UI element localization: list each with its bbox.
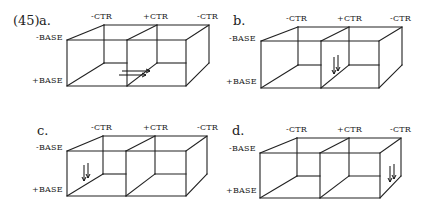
label-minus-ctr-left: -CTR bbox=[91, 123, 113, 132]
panel-label: b. bbox=[233, 13, 245, 28]
box-wireframe bbox=[67, 25, 209, 86]
label-minus-ctr-right: -CTR bbox=[197, 12, 219, 21]
label-minus-ctr-left: -CTR bbox=[286, 14, 308, 23]
figure-number: (45) bbox=[13, 13, 40, 28]
panel-c: c. -CTR +CTR -CTR -BASE +BASE bbox=[32, 123, 219, 196]
panel-a: (45) a. -CTR +CTR -CTR -BASE +BASE bbox=[13, 12, 219, 86]
label-plus-ctr: +CTR bbox=[337, 125, 363, 134]
label-minus-base: -BASE bbox=[229, 34, 256, 43]
arrows-down-icon bbox=[332, 55, 340, 74]
panel-label: d. bbox=[232, 123, 244, 138]
box-wireframe bbox=[261, 27, 402, 88]
arrows-down-icon bbox=[82, 163, 90, 181]
label-plus-base: +BASE bbox=[226, 186, 257, 195]
label-plus-base: +BASE bbox=[32, 76, 63, 85]
label-plus-ctr: +CTR bbox=[143, 12, 169, 21]
label-minus-ctr-left: -CTR bbox=[286, 125, 308, 134]
box-wireframe bbox=[260, 138, 401, 198]
label-minus-ctr-right: -CTR bbox=[390, 14, 412, 23]
figure-45: (45) a. -CTR +CTR -CTR -BASE +BASE bbox=[0, 0, 428, 204]
label-plus-ctr: +CTR bbox=[143, 123, 169, 132]
panel-d: d. -CTR +CTR -CTR -BASE +BASE bbox=[226, 123, 412, 198]
label-plus-base: +BASE bbox=[226, 77, 257, 86]
arrows-down-icon bbox=[388, 164, 396, 182]
label-plus-base: +BASE bbox=[32, 185, 63, 194]
panel-label: c. bbox=[37, 123, 48, 138]
label-minus-ctr-right: -CTR bbox=[390, 125, 412, 134]
arrows-right-icon bbox=[119, 69, 150, 77]
label-minus-ctr-right: -CTR bbox=[197, 123, 219, 132]
label-minus-base: -BASE bbox=[36, 33, 63, 42]
panel-label: a. bbox=[39, 13, 51, 28]
label-minus-base: -BASE bbox=[36, 143, 63, 152]
panel-b: b. -CTR +CTR -CTR -BASE +BASE bbox=[226, 13, 412, 88]
label-plus-ctr: +CTR bbox=[337, 14, 363, 23]
label-minus-ctr-left: -CTR bbox=[91, 12, 113, 21]
label-minus-base: -BASE bbox=[229, 144, 256, 153]
